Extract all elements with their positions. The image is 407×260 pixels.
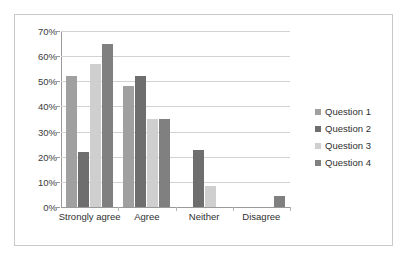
legend-swatch-icon: [315, 109, 321, 115]
x-axis-tick-mark: [290, 207, 291, 211]
bar: [274, 196, 285, 207]
x-axis-tick-label: Strongly agree: [59, 211, 121, 222]
legend-item[interactable]: Question 3: [315, 137, 389, 154]
bar: [147, 119, 158, 207]
y-axis-tick-mark: [56, 56, 60, 57]
y-axis-tick-mark: [56, 207, 60, 208]
y-axis-tick-mark: [56, 157, 60, 158]
legend-item-label: Question 1: [325, 106, 371, 117]
chart-legend: Question 1Question 2Question 3Question 4: [315, 103, 389, 171]
x-axis-tick-label: Agree: [134, 211, 159, 222]
y-axis-tick-mark: [56, 182, 60, 183]
y-axis-tick-label: 0%: [17, 202, 57, 213]
legend-item[interactable]: Question 4: [315, 154, 389, 171]
y-axis-tick-mark: [56, 106, 60, 107]
y-axis-tick-label: 10%: [17, 176, 57, 187]
legend-swatch-icon: [315, 126, 321, 132]
legend-item-label: Question 3: [325, 140, 371, 151]
bar: [159, 119, 170, 207]
bar: [90, 64, 101, 207]
bar: [135, 76, 146, 207]
legend-item-label: Question 4: [325, 157, 371, 168]
x-axis-tick-mark: [176, 207, 177, 211]
legend-swatch-icon: [315, 160, 321, 166]
y-axis-tick-mark: [56, 132, 60, 133]
x-axis-tick-mark: [233, 207, 234, 211]
x-axis-tick-mark: [118, 207, 119, 211]
bar-group: [118, 31, 175, 207]
y-axis-tick-label: 60%: [17, 51, 57, 62]
bar-group: [233, 31, 290, 207]
bar-group: [176, 31, 233, 207]
y-axis-tick-label: 50%: [17, 76, 57, 87]
y-axis-tick-labels: 0%10%20%30%40%50%60%70%: [15, 31, 57, 208]
x-axis-tick-label: Disagree: [242, 211, 280, 222]
y-axis-tick-label: 30%: [17, 126, 57, 137]
bar: [123, 86, 134, 207]
y-axis-tick-mark: [56, 81, 60, 82]
plot-area: [61, 31, 290, 207]
bar: [205, 186, 216, 207]
legend-swatch-icon: [315, 143, 321, 149]
bar: [193, 150, 204, 207]
y-axis-tick-label: 40%: [17, 101, 57, 112]
bar: [78, 152, 89, 207]
bar: [66, 76, 77, 207]
y-axis-tick-label: 20%: [17, 151, 57, 162]
legend-item[interactable]: Question 1: [315, 103, 389, 120]
bar: [102, 44, 113, 207]
x-axis-tick-label: Neither: [189, 211, 220, 222]
y-axis-tick-label: 70%: [17, 26, 57, 37]
legend-item-label: Question 2: [325, 123, 371, 134]
x-axis-tick-labels: Strongly agreeAgreeNeitherDisagree: [61, 211, 290, 231]
y-axis-tick-mark: [56, 31, 60, 32]
legend-item[interactable]: Question 2: [315, 120, 389, 137]
chart-figure: 0%10%20%30%40%50%60%70% Strongly agreeAg…: [14, 14, 393, 246]
bar-group: [61, 31, 118, 207]
